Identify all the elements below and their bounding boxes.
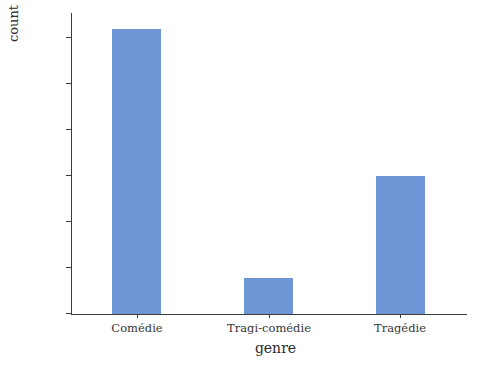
x-axis-title: genre xyxy=(0,340,481,356)
y-tick-mark xyxy=(66,37,71,38)
y-tick-mark xyxy=(66,83,71,84)
bar xyxy=(376,176,425,314)
bar xyxy=(244,278,293,314)
y-tick-mark xyxy=(66,313,71,314)
x-axis-title-label: genre xyxy=(185,340,296,356)
bar xyxy=(112,29,161,314)
y-tick-mark xyxy=(66,129,71,130)
y-tick-mark xyxy=(66,267,71,268)
x-tick-mark xyxy=(400,314,401,318)
y-tick-mark xyxy=(66,221,71,222)
x-tick-label: Tragédie xyxy=(310,321,481,335)
y-axis-title: count xyxy=(6,0,30,187)
bar-chart-figure: 050100150200250300 ComédieTragi-comédieT… xyxy=(0,0,481,371)
y-axis-spine xyxy=(71,13,72,315)
y-axis-title-label: count xyxy=(6,0,21,209)
x-tick-mark xyxy=(269,314,270,318)
x-tick-mark xyxy=(137,314,138,318)
y-tick-mark xyxy=(66,175,71,176)
